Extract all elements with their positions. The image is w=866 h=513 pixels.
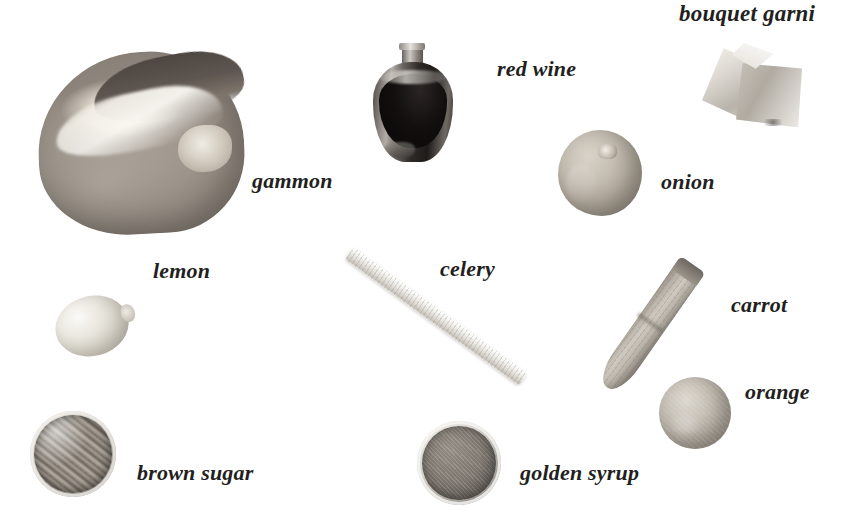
ingredient-orange (659, 377, 731, 449)
ingredient-lemon (55, 296, 135, 356)
label-golden-syrup: golden syrup (520, 462, 639, 484)
label-bouquet-garni: bouquet garni (679, 2, 815, 25)
ingredient-golden-syrup (417, 421, 501, 505)
label-lemon: lemon (153, 260, 210, 282)
brown-sugar-bowl-rim (30, 411, 116, 497)
wine-jug-neck-top (399, 43, 425, 50)
golden-syrup-dish-rim (417, 421, 501, 505)
label-orange: orange (745, 381, 810, 403)
ingredient-bouquet-garni (702, 43, 802, 131)
label-brown-sugar: brown sugar (137, 462, 254, 484)
ingredient-celery (340, 248, 525, 380)
label-celery: celery (440, 258, 495, 280)
ingredient-brown-sugar (30, 411, 116, 497)
lemon-body (49, 288, 135, 364)
onion-neck (598, 144, 616, 159)
ingredient-gammon (38, 52, 244, 234)
bouquet-garni-speckles (760, 119, 786, 126)
ingredient-onion (558, 130, 642, 216)
wine-jug-spout (383, 142, 415, 158)
label-onion: onion (661, 171, 715, 193)
ingredient-carrot (598, 258, 702, 394)
bouquet-garni-bag-right (736, 61, 802, 128)
celery-stalk (345, 247, 527, 385)
wine-jug-body (373, 62, 453, 162)
wine-liquid (379, 74, 446, 148)
label-red-wine: red wine (497, 58, 576, 80)
wine-jug-rim-highlight (378, 70, 448, 84)
label-carrot: carrot (731, 294, 787, 316)
ingredient-layout-page: gammon red wine bouquet garni onion lemo… (0, 0, 866, 513)
onion-highlight (566, 164, 596, 202)
orange-highlight (671, 413, 700, 436)
ingredient-red-wine (373, 44, 453, 162)
label-gammon: gammon (252, 170, 333, 192)
orange-peel-texture (659, 377, 731, 449)
